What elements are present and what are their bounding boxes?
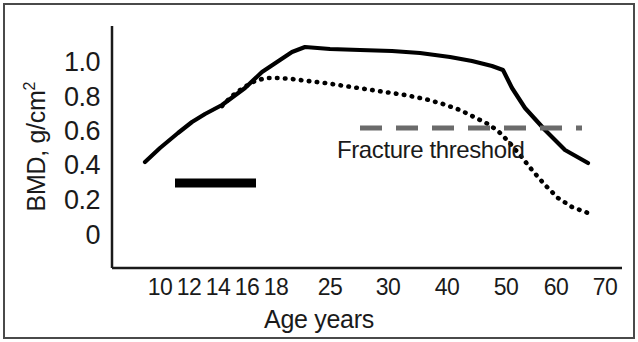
xtick-label-30: 30 — [376, 276, 401, 299]
xtick-label-25: 25 — [318, 276, 343, 299]
y-axis-title: BMD, g/cm2 — [21, 67, 50, 227]
xtick-label-12: 12 — [177, 276, 202, 299]
x-axis-title: Age years — [0, 305, 638, 334]
fracture-threshold-label: Fracture threshold — [337, 136, 525, 164]
xtick-label-70: 70 — [593, 276, 618, 299]
xtick-label-40: 40 — [435, 276, 460, 299]
xtick-label-10: 10 — [148, 276, 173, 299]
xtick-label-18: 18 — [264, 276, 289, 299]
y-axis-title-text: BMD, g/cm — [22, 91, 50, 212]
bmd-age-chart-figure: 1.0 0.8 0.6 0.4 0.2 0 10 12 14 16 18 25 … — [0, 0, 638, 342]
xtick-label-50: 50 — [494, 276, 519, 299]
xtick-label-14: 14 — [206, 276, 231, 299]
xtick-label-16: 16 — [235, 276, 260, 299]
y-axis-title-exponent: 2 — [21, 82, 38, 91]
xtick-label-60: 60 — [544, 276, 569, 299]
